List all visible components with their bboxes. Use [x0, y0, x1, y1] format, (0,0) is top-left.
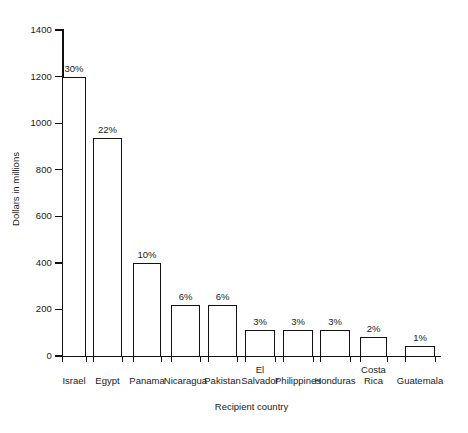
- bar-value-label: 22%: [81, 125, 134, 135]
- x-axis-tick: [360, 356, 361, 362]
- y-axis-tick-label: 1000: [14, 118, 52, 128]
- y-axis-tick-label: 200: [14, 304, 52, 314]
- y-axis-tick: [55, 309, 62, 310]
- x-axis-tick: [161, 356, 162, 362]
- y-axis-tick: [55, 123, 62, 124]
- x-axis-title: Recipient country: [62, 402, 441, 412]
- x-axis-tick: [435, 356, 436, 362]
- y-axis-title: Dollars in millions: [11, 129, 21, 249]
- x-axis-tick: [93, 356, 94, 362]
- x-axis-tick: [350, 356, 351, 362]
- bar-value-label: 30%: [50, 64, 98, 74]
- bar-value-label: 1%: [393, 333, 447, 343]
- x-axis-tick: [171, 356, 172, 362]
- bar-chart: Dollars in millions Recipient country 02…: [0, 0, 468, 433]
- bar-egypt: [93, 138, 122, 356]
- bar-israel: [62, 77, 86, 356]
- x-axis-tick: [86, 356, 87, 362]
- x-axis-tick: [133, 356, 134, 362]
- y-axis-tick-label: 1200: [14, 72, 52, 82]
- y-axis-tick-label: 400: [14, 258, 52, 268]
- x-axis-tick: [245, 356, 246, 362]
- y-axis-tick: [55, 216, 62, 217]
- x-axis-tick: [313, 356, 314, 362]
- bar-pakistan: [208, 305, 237, 356]
- bar-value-label: 10%: [121, 250, 173, 260]
- bar-el-salvador: [245, 330, 275, 356]
- y-axis-tick-label: 1400: [14, 25, 52, 35]
- y-axis-tick: [55, 262, 62, 263]
- x-axis-tick: [200, 356, 201, 362]
- x-axis-tick: [283, 356, 284, 362]
- y-axis-tick: [55, 169, 62, 170]
- x-axis-tick: [387, 356, 388, 362]
- bar-value-label: 6%: [196, 292, 249, 302]
- x-axis-tick: [62, 356, 63, 362]
- x-axis-tick: [405, 356, 406, 362]
- y-axis-tick: [55, 76, 62, 77]
- bar-panama: [133, 263, 161, 356]
- x-axis-tick: [320, 356, 321, 362]
- bar-guatemala: [405, 346, 435, 356]
- bar-costa-rica: [360, 337, 387, 356]
- x-axis-tick: [122, 356, 123, 362]
- y-axis-tick: [55, 29, 62, 30]
- bar-honduras: [320, 330, 350, 356]
- x-axis-tick: [208, 356, 209, 362]
- x-axis-tick: [275, 356, 276, 362]
- y-axis-tick-label: 800: [14, 165, 52, 175]
- y-axis-tick-label: 600: [14, 211, 52, 221]
- bar-philippines: [283, 330, 313, 356]
- bar-nicaragua: [171, 305, 200, 356]
- y-axis-tick: [55, 355, 62, 356]
- bar-value-label: 2%: [348, 324, 399, 334]
- x-axis-tick: [237, 356, 238, 362]
- x-axis-category-label: Guatemala: [385, 375, 455, 386]
- y-axis-tick-label: 0: [14, 351, 52, 361]
